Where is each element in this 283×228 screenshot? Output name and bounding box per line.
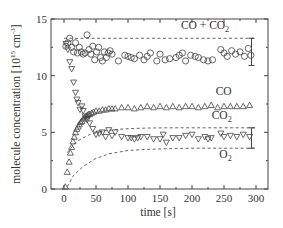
data-point-triangle-up (183, 103, 189, 108)
data-point-circle (205, 58, 211, 64)
data-point-circle (92, 57, 98, 63)
y-axis-title: molecule concentration [1015 cm-3] (9, 24, 22, 183)
data-point-circle (82, 50, 88, 56)
data-point-triangle-down (189, 132, 195, 137)
data-point-circle (188, 52, 194, 58)
data-point-triangle-down (69, 66, 75, 71)
data-point-triangle-down (183, 133, 189, 138)
data-point-triangle-up (176, 104, 182, 109)
y-tick-label: 5 (42, 126, 48, 138)
data-point-triangle-down (73, 90, 79, 95)
data-point-triangle-up (144, 103, 150, 108)
data-point-triangle-down (144, 134, 150, 139)
x-tick-label: 100 (120, 192, 137, 204)
data-point-triangle-down (74, 97, 80, 102)
x-tick-label: 0 (61, 192, 67, 204)
data-point-triangle-down (218, 131, 224, 136)
x-tick-label: 250 (216, 192, 233, 204)
data-point-triangle-up (73, 129, 79, 134)
data-point-triangle-up (157, 103, 163, 108)
data-point-triangle-up (125, 104, 131, 109)
series-label: CO2 (212, 109, 232, 124)
data-point-circle (245, 45, 251, 51)
data-point-triangle-down (221, 134, 227, 139)
series-label: CO (216, 85, 232, 97)
data-point-triangle-down (112, 130, 118, 135)
data-point-circle (229, 48, 235, 54)
x-axis-title: time [s] (140, 206, 175, 218)
data-point-triangle-up (138, 104, 144, 109)
data-point-triangle-down (119, 134, 125, 139)
data-point-triangle-up (208, 102, 214, 107)
data-point-triangle-down (75, 100, 81, 105)
data-point-circle (183, 58, 189, 64)
data-point-triangle-up (67, 150, 73, 155)
data-point-triangle-down (67, 60, 73, 65)
data-point-triangle-down (163, 140, 169, 145)
data-point-triangle-down (157, 137, 163, 142)
series-labels: CO + CO2COCO2O2 (181, 19, 232, 163)
x-tick-label: 50 (91, 192, 103, 204)
data-point-triangle-down (71, 80, 77, 85)
data-point-triangle-down (240, 132, 246, 137)
data-point-circle (101, 49, 107, 55)
series-label: O2 (219, 148, 231, 163)
data-point-triangle-down (87, 121, 93, 126)
data-point-triangle-up (119, 104, 125, 109)
data-point-triangle-up (64, 169, 70, 174)
data-point-triangle-up (202, 103, 208, 108)
data-point-triangle-up (189, 103, 195, 108)
data-point-circle (90, 43, 96, 49)
data-point-triangle-up (163, 104, 169, 109)
x-tick-label: 150 (152, 192, 169, 204)
data-point-triangle-down (151, 137, 157, 142)
data-point-triangle-down (90, 127, 96, 132)
data-point-triangle-up (131, 106, 137, 111)
data-point-triangle-down (227, 133, 233, 138)
chart: 050100150200250300051015 CO + CO2COCO2O2… (0, 0, 283, 228)
data-point-circle (154, 58, 160, 64)
data-point-triangle-up (151, 104, 157, 109)
data-point-triangle-up (240, 103, 246, 108)
series-label: CO + CO2 (181, 19, 229, 34)
data-point-circle (74, 50, 80, 56)
data-point-triangle-up (66, 159, 72, 164)
data-point-circle (248, 52, 254, 58)
data-point-triangle-up (247, 102, 253, 107)
data-point-triangle-down (195, 137, 201, 142)
data-point-circle (241, 53, 247, 59)
data-point-circle (162, 57, 168, 63)
y-tick-label: 15 (36, 13, 48, 25)
data-point-triangle-up (227, 103, 233, 108)
data-point-circle (115, 58, 121, 64)
data-point-circle (200, 57, 206, 63)
data-point-triangle-up (170, 103, 176, 108)
data-point-triangle-down (170, 136, 176, 141)
data-point-circle (167, 56, 173, 62)
x-tick-label: 300 (248, 192, 265, 204)
data-point-circle (209, 57, 215, 63)
data-point-circle (157, 51, 163, 57)
y-tick-label: 10 (36, 70, 48, 82)
x-tick-label: 200 (184, 192, 201, 204)
data-point-triangle-down (234, 134, 240, 139)
data-point-triangle-down (176, 136, 182, 141)
data-point-triangle-up (234, 103, 240, 108)
y-tick-label: 0 (42, 183, 48, 195)
data-point-triangle-down (103, 134, 109, 139)
data-point-triangle-up (195, 104, 201, 109)
data-point-circle (84, 32, 90, 38)
